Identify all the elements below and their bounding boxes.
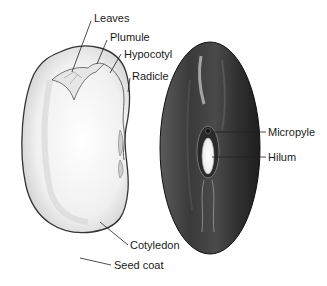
label-cotyledon: Cotyledon	[130, 239, 180, 251]
label-plumule: Plumule	[110, 31, 150, 43]
label-radicle: Radicle	[132, 70, 169, 82]
outer-seed	[160, 42, 260, 254]
label-micropyle: Micropyle	[268, 126, 315, 138]
label-hilum: Hilum	[268, 151, 296, 163]
label-leaves: Leaves	[94, 12, 129, 24]
label-seed-coat: Seed coat	[114, 259, 164, 271]
inner-seed	[22, 46, 130, 233]
label-hypocotyl: Hypocotyl	[124, 48, 172, 60]
